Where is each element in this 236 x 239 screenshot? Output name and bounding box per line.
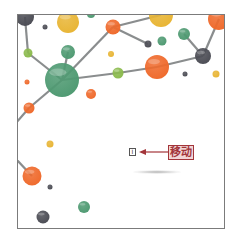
slide-canvas: I 移动: [0, 0, 236, 239]
node-highlight: [107, 22, 115, 25]
network-node-dark-gray: [48, 185, 53, 190]
network-node-orange: [86, 89, 96, 99]
arrow-left-icon: [139, 148, 169, 156]
network-node-green: [61, 45, 75, 59]
network-node-dark-gray: [37, 211, 50, 224]
node-highlight: [114, 69, 120, 71]
network-node-dark-gray: [43, 25, 48, 30]
text-box-shadow: [133, 170, 181, 174]
network-node-orange: [24, 103, 35, 114]
network-node-yellow: [213, 71, 220, 78]
network-node-yellow: [149, 15, 173, 27]
network-node-dark-gray: [145, 41, 152, 48]
node-highlight: [197, 51, 205, 55]
network-node-green: [87, 15, 95, 18]
network-node-orange: [25, 80, 30, 85]
network-node-yellow: [108, 51, 114, 57]
network-node-green: [178, 28, 190, 40]
slide-frame[interactable]: [17, 14, 225, 229]
node-highlight: [25, 104, 31, 106]
network-node-yellow: [47, 141, 54, 148]
network-node-dark-gray: [195, 48, 211, 64]
network-node-green: [158, 37, 167, 46]
network-node-light-green: [24, 49, 33, 58]
node-highlight: [148, 59, 160, 64]
node-highlight: [63, 47, 70, 50]
network-node-dark-gray: [183, 72, 188, 77]
network-node-dark-gray: [18, 15, 34, 26]
network-node-light-green: [113, 68, 124, 79]
node-highlight: [49, 69, 66, 76]
node-highlight: [38, 213, 45, 216]
move-annotation-label: 移动: [168, 145, 194, 160]
network-node-orange: [208, 15, 225, 30]
network-node-green: [45, 63, 79, 97]
text-cursor-icon[interactable]: I: [129, 148, 136, 156]
network-node-orange: [106, 20, 121, 35]
node-highlight: [80, 203, 86, 206]
molecule-network-graphic: [18, 15, 225, 229]
node-highlight: [180, 30, 186, 33]
network-node-orange: [145, 55, 169, 79]
network-node-green: [78, 201, 90, 213]
node-highlight: [87, 91, 92, 93]
network-node-orange: [23, 167, 42, 186]
node-highlight: [25, 170, 35, 174]
